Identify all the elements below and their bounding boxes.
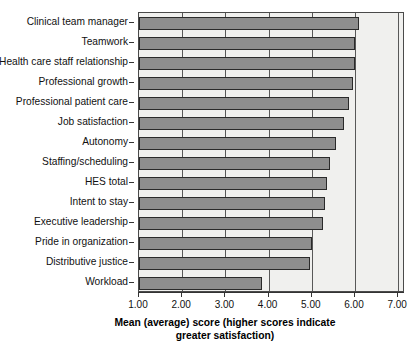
y-axis-tick-mark [129,42,134,43]
plot-inner [139,13,403,291]
x-axis-line [138,292,404,293]
y-axis-tick-mark [129,242,134,243]
bar [139,117,344,130]
y-axis-tick-mark [129,202,134,203]
x-axis-tick-mark [311,292,312,297]
y-axis-tick-mark [129,22,134,23]
y-axis-tick-label: Pride in organization [35,236,128,248]
x-axis-tick-label: 1.00 [118,299,158,310]
y-axis-tick-label: Job satisfaction [58,116,128,128]
y-axis-tick-label: Workload [85,276,128,288]
x-axis-tick-label: 5.00 [291,299,331,310]
x-axis-tick-label: 4.00 [248,299,288,310]
bar [139,77,353,90]
x-axis-title-line-1: Mean (average) score (higher scores indi… [60,316,390,329]
gridline-6 [355,13,356,291]
y-axis-tick-label: Staffing/scheduling [42,156,128,168]
bar [139,137,336,150]
y-axis-tick-label: Autonomy [82,136,128,148]
x-axis-tick-label: 6.00 [334,299,374,310]
bar [139,197,325,210]
x-axis-tick-mark [397,292,398,297]
y-axis-tick-mark [129,282,134,283]
y-axis-tick-mark [129,262,134,263]
y-axis-tick-label: Health care staff relationship [0,56,128,68]
bar [139,217,323,230]
y-axis-tick-label: HES total [85,176,128,188]
bar [139,257,310,270]
bar [139,157,330,170]
x-axis-title-line-2: greater satisfaction) [60,329,390,342]
y-axis-tick-label: Teamwork [82,36,128,48]
y-axis-tick-mark [129,142,134,143]
y-axis-tick-mark [129,162,134,163]
y-axis-tick-label: Executive leadership [34,216,128,228]
y-axis-tick-label: Clinical team manager [27,16,128,28]
y-axis-tick-label: Professional growth [39,76,128,88]
x-axis-tick-label: 3.00 [204,299,244,310]
y-axis-tick-mark [129,182,134,183]
x-axis-tick-mark [138,292,139,297]
y-axis-tick-mark [129,102,134,103]
y-axis-category-labels: Clinical team managerTeamworkHealth care… [0,12,134,292]
bar [139,17,359,30]
y-axis-tick-mark [129,62,134,63]
y-axis-tick-label: Intent to stay [70,196,128,208]
y-axis-tick-label: Distributive justice [46,256,128,268]
bar [139,237,312,250]
y-axis-tick-mark [129,222,134,223]
x-axis-tick-mark [181,292,182,297]
gridline-7 [398,13,399,291]
y-axis-tick-mark [129,122,134,123]
y-axis-tick-label: Professional patient care [16,96,128,108]
plot-area [138,12,404,292]
x-axis-tick-mark [224,292,225,297]
x-axis-tick-label: 7.00 [377,299,415,310]
gridline-5 [312,13,313,291]
x-axis-tick-mark [354,292,355,297]
bar [139,57,355,70]
x-axis-title: Mean (average) score (higher scores indi… [60,316,390,342]
bar-chart-figure: Clinical team managerTeamworkHealth care… [0,0,415,350]
bar [139,277,262,290]
bar [139,177,327,190]
x-axis-tick-label: 2.00 [161,299,201,310]
y-axis-tick-mark [129,82,134,83]
bar [139,97,349,110]
bar [139,37,355,50]
x-axis-tick-mark [268,292,269,297]
